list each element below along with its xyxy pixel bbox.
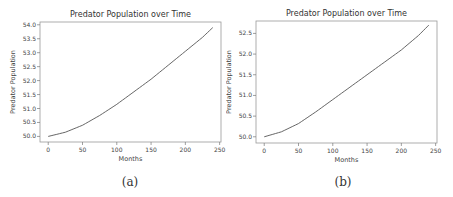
x-tick-label: 50 bbox=[79, 146, 87, 153]
x-tick-label: 250 bbox=[214, 146, 226, 153]
chart-title: Predator Population over Time bbox=[286, 9, 407, 18]
y-axis-label: Predator Population bbox=[9, 50, 17, 114]
chart-panel-a: Predator Population over Time05010015020… bbox=[0, 0, 226, 197]
x-tick-label: 200 bbox=[180, 146, 192, 153]
y-tick-label: 52.0 bbox=[239, 50, 253, 57]
y-tick-label: 51.0 bbox=[239, 91, 253, 98]
data-line bbox=[48, 28, 213, 137]
x-tick-label: 100 bbox=[111, 146, 123, 153]
line-chart-b: Predator Population over Time05010015020… bbox=[226, 0, 453, 175]
x-tick-label: 250 bbox=[430, 147, 442, 154]
x-tick-label: 0 bbox=[46, 146, 50, 153]
x-tick-label: 150 bbox=[361, 147, 373, 154]
panel-caption-a: (a) bbox=[110, 175, 150, 189]
y-tick-label: 53.5 bbox=[23, 35, 37, 42]
data-line bbox=[264, 25, 429, 137]
chart-panel-b: Predator Population over Time05010015020… bbox=[226, 0, 452, 197]
x-tick-label: 0 bbox=[262, 147, 266, 154]
x-axis-label: Months bbox=[335, 156, 359, 164]
x-tick-label: 200 bbox=[396, 147, 408, 154]
plot-frame bbox=[256, 21, 437, 143]
panel-caption-b: (b) bbox=[323, 175, 363, 189]
x-tick-label: 50 bbox=[295, 147, 303, 154]
x-axis-label: Months bbox=[119, 155, 143, 163]
chart-title: Predator Population over Time bbox=[70, 10, 191, 19]
plot-frame bbox=[40, 22, 221, 142]
x-tick-label: 150 bbox=[145, 146, 157, 153]
x-tick-label: 100 bbox=[327, 147, 339, 154]
y-tick-label: 51.0 bbox=[23, 105, 37, 112]
y-tick-label: 50.5 bbox=[23, 118, 37, 125]
y-tick-label: 52.0 bbox=[23, 77, 37, 84]
line-chart-a: Predator Population over Time05010015020… bbox=[0, 0, 226, 175]
y-tick-label: 50.5 bbox=[239, 112, 253, 119]
y-axis-label: Predator Population bbox=[226, 50, 233, 114]
y-tick-label: 50.0 bbox=[23, 132, 37, 139]
y-tick-label: 52.5 bbox=[239, 29, 253, 36]
y-tick-label: 54.0 bbox=[23, 21, 37, 28]
y-tick-label: 50.0 bbox=[239, 133, 253, 140]
y-tick-label: 53.0 bbox=[23, 49, 37, 56]
y-tick-label: 51.5 bbox=[23, 91, 37, 98]
y-tick-label: 52.5 bbox=[23, 63, 37, 70]
y-tick-label: 51.5 bbox=[239, 71, 253, 78]
